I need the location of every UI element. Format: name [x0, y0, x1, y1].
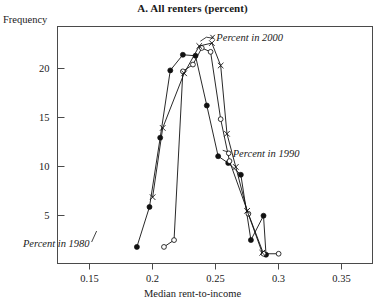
- data-point-marker: [227, 159, 232, 164]
- x-tick-label: 0.15: [80, 273, 98, 284]
- series-annotation-label: Percent in 2000: [215, 32, 283, 43]
- x-tick-label: 0.2: [146, 273, 159, 284]
- data-point-marker: [233, 164, 239, 170]
- series-annotation: Percent in 1980: [22, 231, 97, 249]
- annotation-marker: [226, 151, 231, 156]
- annotation-leader: [92, 231, 97, 242]
- y-tick-label: 15: [39, 112, 50, 123]
- y-tick-label: 20: [39, 63, 50, 74]
- data-point-marker: [238, 172, 243, 177]
- data-point-marker: [204, 103, 209, 108]
- series-annotation: Percent in 1990: [223, 148, 300, 159]
- data-point-marker: [261, 213, 266, 218]
- series-annotation: Percent in 2000: [200, 32, 283, 43]
- x-tick-label: 0.35: [332, 273, 350, 284]
- chart-figure: A. All renters (percent) Frequency Media…: [0, 0, 385, 307]
- x-axis-ticks: 0.150.20.250.30.35: [80, 264, 350, 284]
- x-tick-label: 0.25: [206, 273, 224, 284]
- annotation-leader: [200, 37, 213, 41]
- series-annotation-label: Percent in 1990: [232, 148, 300, 159]
- data-point-marker: [208, 49, 213, 54]
- data-point-marker: [216, 154, 221, 159]
- data-point-marker: [191, 62, 196, 67]
- plot-area: 0.150.20.250.30.35 5101520 Percent in 20…: [0, 0, 385, 307]
- y-tick-label: 5: [44, 210, 49, 221]
- data-point-marker: [218, 117, 223, 122]
- data-point-marker: [276, 251, 281, 256]
- x-tick-label: 0.3: [272, 273, 285, 284]
- series-annotation-label: Percent in 1980: [22, 238, 90, 249]
- data-point-marker: [147, 204, 152, 209]
- data-point-marker: [248, 238, 253, 243]
- plot-frame: [58, 27, 373, 264]
- data-point-marker: [180, 52, 185, 57]
- chart-title: A. All renters (percent): [0, 2, 385, 14]
- y-axis-title: Frequency: [3, 14, 47, 25]
- x-axis-title: Median rent-to-income: [0, 288, 385, 299]
- y-axis-ticks: 5101520: [39, 63, 65, 221]
- data-point-marker: [168, 68, 173, 73]
- data-point-marker: [172, 238, 177, 243]
- data-point-marker: [134, 244, 139, 249]
- annotation-marker: [210, 35, 215, 40]
- data-point-marker: [162, 245, 167, 250]
- y-tick-label: 10: [39, 161, 50, 172]
